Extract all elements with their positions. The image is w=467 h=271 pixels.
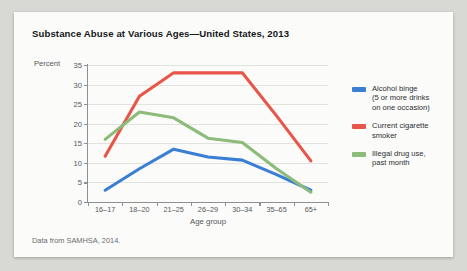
- legend-item[interactable]: Illegal drug use, past month: [352, 149, 448, 168]
- figure-panel: Substance Abuse at Various Ages—United S…: [14, 12, 453, 257]
- plot-area: 05101520253035: [88, 65, 328, 202]
- x-axis-tick: [328, 202, 329, 206]
- x-axis-tick: [259, 202, 260, 206]
- series-line: [105, 73, 311, 161]
- x-axis-tick: [294, 202, 295, 206]
- legend-swatch-icon: [352, 152, 366, 157]
- legend-item[interactable]: Current cigarette smoker: [352, 121, 448, 140]
- x-axis-title: Age group: [190, 217, 226, 226]
- legend-item-label: Alcohol binge (5 or more drinks on one o…: [372, 84, 430, 112]
- legend-item-label: Illegal drug use, past month: [372, 149, 426, 168]
- x-axis-tick-label: 26–29: [198, 205, 218, 214]
- legend-swatch-icon: [352, 124, 366, 129]
- legend-swatch-icon: [352, 87, 366, 92]
- x-axis-tick-label: 21–25: [164, 205, 184, 214]
- y-axis-label: Percent: [34, 59, 60, 68]
- chart-title: Substance Abuse at Various Ages—United S…: [32, 28, 289, 39]
- y-axis-tick-label: 0: [78, 198, 82, 207]
- x-axis-tick: [88, 202, 89, 206]
- x-axis-tick: [191, 202, 192, 206]
- source-note: Data from SAMHSA, 2014.: [32, 236, 120, 245]
- x-axis-tick-label: 16–17: [95, 205, 115, 214]
- x-axis-tick-label: 30–34: [232, 205, 252, 214]
- y-axis-tick-label: 35: [74, 61, 82, 70]
- x-axis-tick: [225, 202, 226, 206]
- y-axis-tick-label: 30: [74, 80, 82, 89]
- y-axis-tick-label: 20: [74, 119, 82, 128]
- legend-item[interactable]: Alcohol binge (5 or more drinks on one o…: [352, 84, 448, 112]
- chart-legend: Alcohol binge (5 or more drinks on one o…: [352, 84, 448, 177]
- y-axis-tick-label: 10: [74, 158, 82, 167]
- y-axis-tick-label: 5: [78, 178, 82, 187]
- x-axis-tick: [122, 202, 123, 206]
- series-lines: [88, 65, 328, 202]
- series-line: [105, 112, 311, 192]
- x-axis-tick-label: 35–65: [266, 205, 286, 214]
- x-axis-tick-label: 18–20: [129, 205, 149, 214]
- legend-item-label: Current cigarette smoker: [372, 121, 429, 140]
- x-axis-tick: [157, 202, 158, 206]
- y-axis-tick-label: 15: [74, 139, 82, 148]
- x-axis-tick-label: 65+: [305, 205, 317, 214]
- y-axis-tick-label: 25: [74, 100, 82, 109]
